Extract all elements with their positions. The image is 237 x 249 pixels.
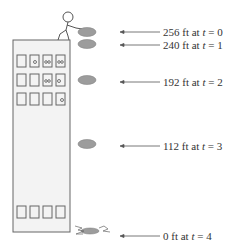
person-icon xyxy=(58,12,82,40)
label-t2: 192 ft at t = 2 xyxy=(163,76,223,88)
label-t0: 256 ft at t = 0 xyxy=(163,26,223,38)
label-t1: 240 ft at t = 1 xyxy=(163,39,223,51)
label-text: at xyxy=(178,230,191,242)
label-text: at xyxy=(189,39,202,51)
label-t3: 112 ft at t = 3 xyxy=(163,140,222,152)
time-value: = 2 xyxy=(206,76,223,88)
time-value: = 0 xyxy=(206,26,223,38)
height-value: 256 ft xyxy=(163,26,189,38)
label-text: at xyxy=(189,76,202,88)
coins xyxy=(78,28,99,235)
label-text: at xyxy=(189,26,202,38)
time-value: = 3 xyxy=(205,140,222,152)
height-value: 240 ft xyxy=(163,39,189,51)
time-value: = 4 xyxy=(195,230,212,242)
building xyxy=(13,40,70,232)
height-value: 112 ft xyxy=(163,140,189,152)
label-text: at xyxy=(189,140,202,152)
time-value: = 1 xyxy=(206,39,223,51)
height-value: 192 ft xyxy=(163,76,189,88)
height-value: 0 ft xyxy=(163,230,178,242)
arrows xyxy=(120,31,160,238)
label-t4: 0 ft at t = 4 xyxy=(163,230,212,242)
